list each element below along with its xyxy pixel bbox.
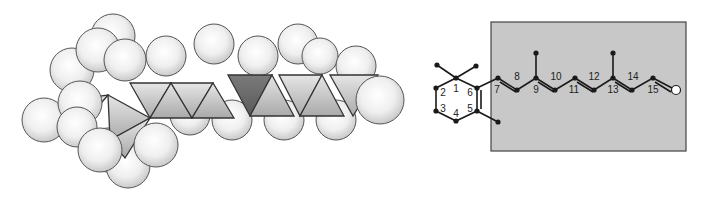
label-c1: 1 — [453, 83, 459, 94]
label-c13: 13 — [607, 84, 619, 95]
label-c5: 5 — [467, 103, 473, 114]
label-c7: 7 — [494, 84, 500, 95]
label-c3: 3 — [440, 103, 446, 114]
label-c14: 14 — [627, 71, 639, 82]
label-c11: 11 — [569, 84, 580, 95]
label-c15: 15 — [647, 84, 659, 95]
label-c8: 8 — [514, 71, 520, 82]
label-c9: 9 — [533, 84, 539, 95]
label-c6: 6 — [467, 87, 473, 98]
skeletal-structure: 1 2 3 4 5 6 7 8 9 10 11 12 13 14 15 — [420, 0, 711, 197]
skeletal-structure-drawing: 1 2 3 4 5 6 7 8 9 10 11 12 13 14 15 — [420, 0, 711, 197]
oxygen-atom — [672, 86, 681, 95]
space-filling-model — [0, 0, 420, 197]
space-filling-model-drawing — [0, 0, 420, 197]
label-c10: 10 — [550, 71, 562, 82]
label-c4: 4 — [453, 108, 459, 119]
label-c2: 2 — [440, 87, 446, 98]
label-c12: 12 — [588, 71, 600, 82]
